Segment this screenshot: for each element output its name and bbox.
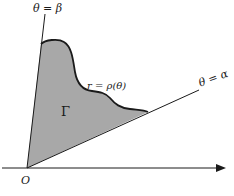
label-region: Γ: [61, 105, 70, 118]
label-origin: O: [21, 175, 30, 186]
axis-arrowhead-icon: [216, 164, 226, 172]
diagram-canvas: [0, 0, 234, 196]
polar-region-diagram: θ = β θ = α r = ρ(θ) Γ O: [0, 0, 234, 196]
label-ray-beta: θ = β: [33, 3, 62, 14]
label-curve: r = ρ(θ): [87, 81, 126, 91]
region-gamma: [27, 40, 148, 168]
